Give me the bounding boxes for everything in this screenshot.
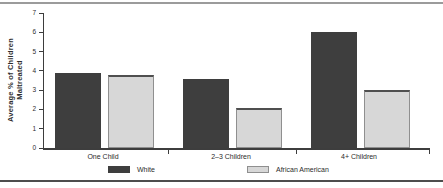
y-axis-tick (39, 109, 44, 110)
y-axis-tick (39, 13, 44, 14)
category-label: 4+ Children (309, 152, 409, 161)
bar-african-american (108, 75, 154, 148)
y-axis-tick-label: 2 (23, 105, 36, 113)
category-label: One Child (53, 152, 153, 161)
y-axis-tick (39, 128, 44, 129)
plot-area: 01234567 (43, 13, 429, 150)
bar-white (183, 79, 229, 148)
y-axis-tick (39, 70, 44, 71)
bar-white (55, 73, 101, 148)
bottom-rule (0, 180, 443, 182)
legend-label: White (137, 165, 155, 174)
legend: WhiteAfrican American (0, 165, 443, 176)
y-axis-tick-label: 3 (23, 86, 36, 94)
y-axis-tick-label: 4 (23, 67, 36, 75)
category-label: 2–3 Children (181, 152, 281, 161)
x-axis-labels: One Child2–3 Children4+ Children (0, 152, 443, 161)
bar-white (311, 32, 357, 148)
y-axis-title-line2: Maltreated (15, 20, 24, 140)
legend-label: African American (276, 165, 329, 174)
bar-african-american (364, 90, 410, 148)
maltreatment-bar-chart-figure: Average % of Children Maltreated 0123456… (0, 0, 443, 188)
y-axis-tick-label: 7 (23, 9, 36, 17)
y-axis-title-line1: Average % of Children (6, 20, 15, 140)
y-axis-tick-label: 5 (23, 48, 36, 56)
y-axis-tick-label: 1 (23, 125, 36, 133)
y-axis-tick-label: 0 (23, 144, 36, 152)
y-axis-tick (39, 51, 44, 52)
y-axis-title: Average % of Children Maltreated (6, 20, 24, 140)
legend-swatch (108, 166, 130, 173)
legend-swatch (247, 166, 269, 173)
y-axis-tick (39, 32, 44, 33)
y-axis-tick (39, 90, 44, 91)
y-axis-tick-label: 6 (23, 28, 36, 36)
bar-african-american (236, 108, 282, 149)
legend-item-white: White (108, 165, 155, 174)
legend-item-african-american: African American (247, 165, 329, 174)
y-axis-tick (39, 148, 44, 149)
top-rule (0, 2, 443, 4)
